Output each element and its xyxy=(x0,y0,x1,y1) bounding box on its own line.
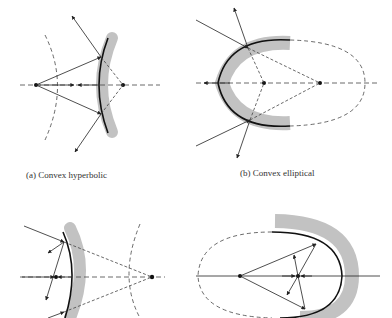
panel-b-convex-elliptical xyxy=(196,8,380,158)
mirror-shading xyxy=(275,221,352,318)
panel-c-concave-hyperbolic xyxy=(20,224,165,318)
caption-panel-a: (a) Convex hyperbolic xyxy=(26,170,107,180)
panel-d-concave-elliptical xyxy=(196,221,380,318)
caption-panel-b: (b) Convex elliptical xyxy=(240,168,314,178)
ellipse-remainder xyxy=(198,232,272,318)
focus-1 xyxy=(54,275,58,279)
panel-a-convex-hyperbolic xyxy=(20,16,160,152)
hyperbola-branch xyxy=(45,35,58,140)
hyperbola-branch xyxy=(129,224,140,318)
mirror-geometry-figure xyxy=(0,0,392,318)
